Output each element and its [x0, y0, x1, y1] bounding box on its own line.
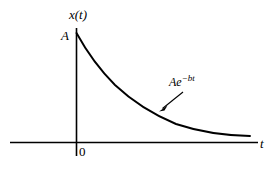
annotation-leader-line — [163, 92, 184, 109]
x-axis-label: t — [260, 137, 264, 150]
decay-curve — [77, 33, 251, 136]
annotation-arrowhead — [159, 106, 168, 112]
equation-base: Ae — [169, 75, 182, 89]
curve-equation-annotation: Ae−bt — [169, 76, 195, 88]
figure-graphic — [0, 0, 269, 170]
equation-exponent: −bt — [182, 73, 195, 83]
amplitude-label: A — [61, 29, 69, 42]
figure-canvas: x(t) A 0 t Ae−bt — [0, 0, 269, 170]
origin-label: 0 — [79, 145, 86, 158]
y-axis-label: x(t) — [69, 8, 87, 21]
